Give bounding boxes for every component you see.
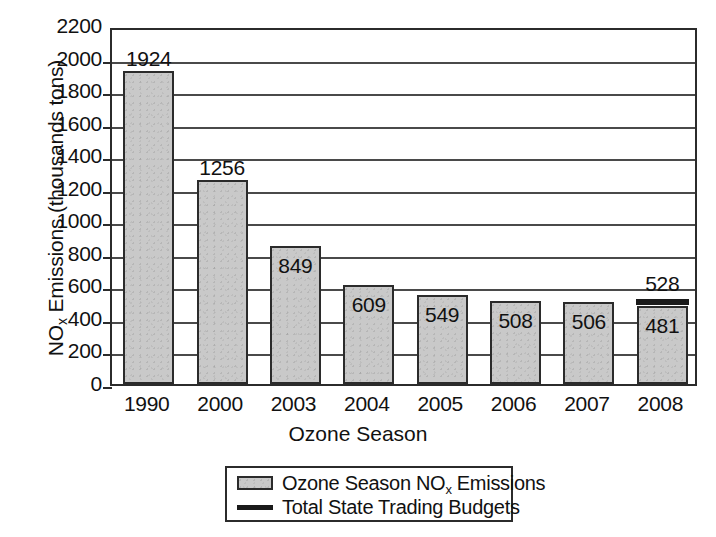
gridline <box>112 94 695 96</box>
bar-value-label: 1924 <box>94 47 204 71</box>
budget-marker-label: 528 <box>607 272 716 296</box>
legend-item-emissions: Ozone Season NOx Emissions <box>237 471 545 495</box>
y-axis-tick-label: 2200 <box>6 14 102 38</box>
y-axis-tick <box>103 322 112 324</box>
legend-swatch-line-icon <box>237 505 273 510</box>
legend-label-budgets: Total State Trading Budgets <box>282 496 520 519</box>
legend-label-emissions-pre: Ozone Season NO <box>282 472 445 494</box>
y-axis-tick-label: 1200 <box>6 177 102 201</box>
y-axis-tick <box>103 257 112 259</box>
legend-swatch-bar-icon <box>237 476 273 490</box>
y-axis-tick-label: 2000 <box>6 47 102 71</box>
legend-label-emissions-post: Emissions <box>452 472 546 494</box>
y-axis-tick-label: 1400 <box>6 144 102 168</box>
y-axis-tick-label: 800 <box>6 242 102 266</box>
y-axis-tick-label: 1600 <box>6 112 102 136</box>
y-axis-tick <box>103 159 112 161</box>
y-axis-tick-label: 1000 <box>6 209 102 233</box>
y-axis-tick <box>103 224 112 226</box>
y-axis-tick-label: 200 <box>6 339 102 363</box>
y-axis-tick <box>103 354 112 356</box>
budget-marker-line <box>636 299 689 305</box>
y-axis-tick <box>103 94 112 96</box>
y-axis-tick-label: 0 <box>6 372 102 396</box>
legend-item-budgets: Total State Trading Budgets <box>237 495 520 519</box>
chart-legend: Ozone Season NOx Emissions Total State T… <box>225 466 513 522</box>
x-axis-title: Ozone Season <box>0 422 716 446</box>
bar-value-label: 1256 <box>167 156 277 180</box>
y-axis-tick <box>103 127 112 129</box>
y-axis-tick-label: 400 <box>6 307 102 331</box>
y-axis-tick <box>103 387 112 389</box>
y-axis-tick <box>103 289 112 291</box>
bar <box>123 71 174 384</box>
bar-chart: NOx Emissions (thousands tons) 220020001… <box>0 0 716 537</box>
bar-value-label: 849 <box>240 254 350 278</box>
x-axis-tick-label: 2008 <box>605 392 715 416</box>
y-axis-tick <box>103 192 112 194</box>
plot-area: 19241256849609549508506481 528 <box>110 28 697 386</box>
gridline <box>112 127 695 129</box>
y-axis-tick-label: 1800 <box>6 79 102 103</box>
bar-value-label: 481 <box>607 314 716 338</box>
y-axis-tick-label: 600 <box>6 274 102 298</box>
legend-label-emissions: Ozone Season NOx Emissions <box>282 472 545 495</box>
bar <box>197 180 248 384</box>
